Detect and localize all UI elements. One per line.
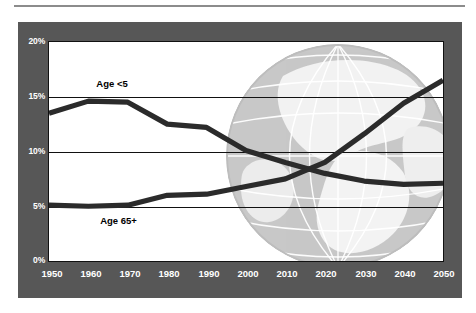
xtick-label-2000: 2000 bbox=[232, 268, 264, 279]
ytick-label-15: 15% bbox=[19, 91, 45, 101]
xtick-label-2040: 2040 bbox=[389, 268, 421, 279]
ytick-label-5: 5% bbox=[19, 201, 45, 211]
xtick-label-1960: 1960 bbox=[75, 268, 107, 279]
ytick-label-0: 0% bbox=[19, 255, 45, 265]
xtick-label-2050: 2050 bbox=[428, 268, 460, 279]
xtick-label-2030: 2030 bbox=[350, 268, 382, 279]
xtick-label-1980: 1980 bbox=[153, 268, 185, 279]
xtick-label-1970: 1970 bbox=[114, 268, 146, 279]
series-line-age-under-5 bbox=[49, 101, 443, 184]
xtick-label-1950: 1950 bbox=[36, 268, 68, 279]
chart-frame: Age <5 Age 65+ 20% 15% 10% 5% 0% 1950 19… bbox=[18, 22, 462, 298]
xtick-label-2020: 2020 bbox=[310, 268, 342, 279]
xtick-label-1990: 1990 bbox=[193, 268, 225, 279]
series-label-age-under-5: Age <5 bbox=[96, 78, 127, 89]
xtick-label-2010: 2010 bbox=[271, 268, 303, 279]
top-divider-rule bbox=[14, 5, 465, 7]
series-label-age-65-plus: Age 65+ bbox=[100, 215, 137, 226]
plot-area: Age <5 Age 65+ bbox=[48, 41, 444, 262]
ytick-label-20: 20% bbox=[19, 36, 45, 46]
ytick-label-10: 10% bbox=[19, 146, 45, 156]
